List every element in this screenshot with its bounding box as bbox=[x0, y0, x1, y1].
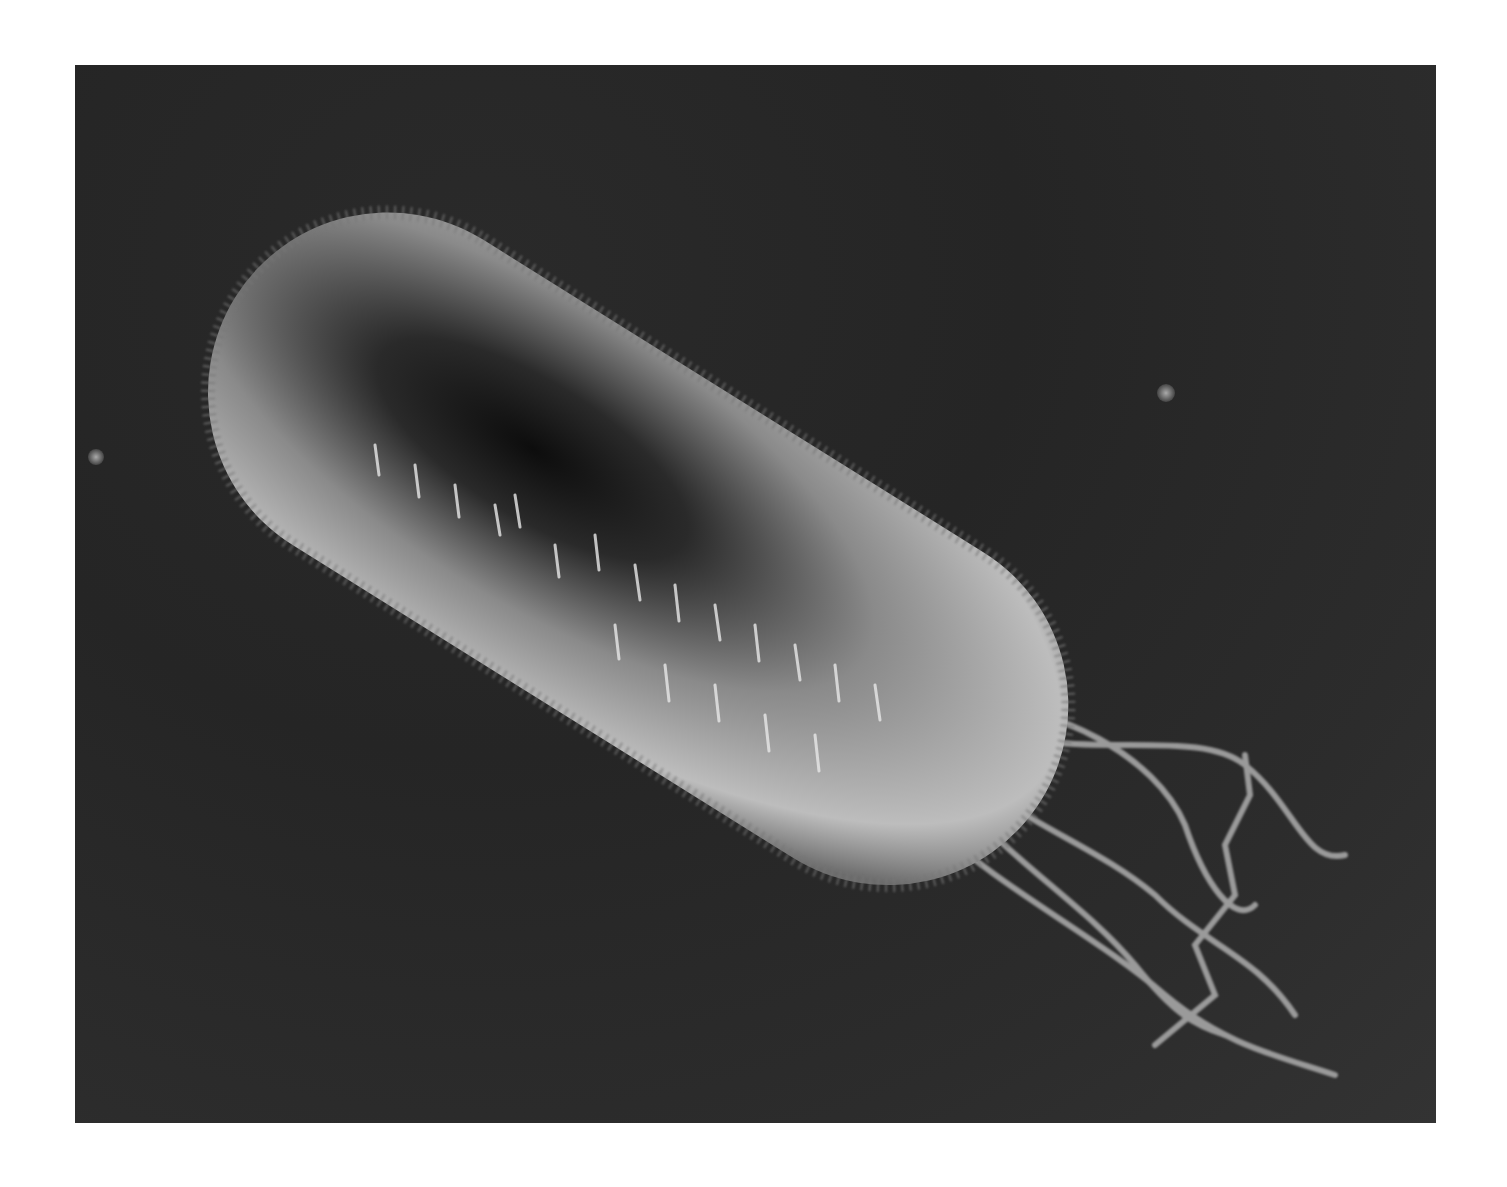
bacterium-illustration bbox=[75, 65, 1436, 1123]
particle bbox=[1157, 384, 1175, 402]
bacterium-body bbox=[140, 144, 1136, 953]
particle bbox=[88, 449, 104, 465]
image-panel bbox=[75, 65, 1436, 1123]
